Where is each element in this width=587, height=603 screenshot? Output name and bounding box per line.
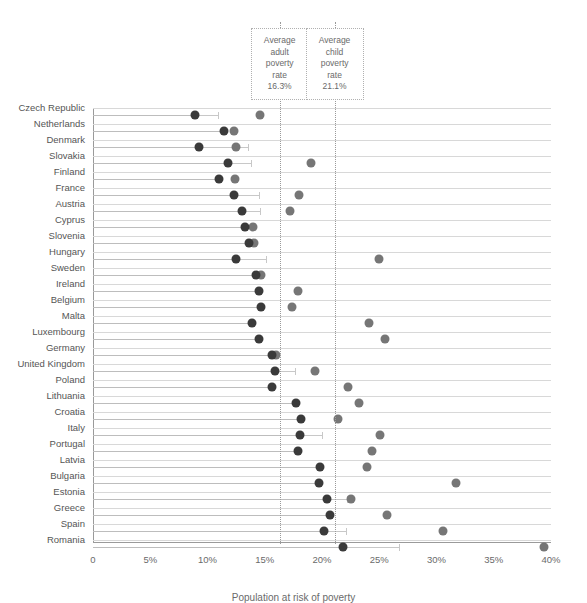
data-point-adult xyxy=(219,127,228,136)
chart-row: Luxembourg xyxy=(93,332,551,348)
chart-row: France xyxy=(93,188,551,204)
data-point-adult xyxy=(248,319,257,328)
data-point-adult xyxy=(251,271,260,280)
row-gridline xyxy=(93,380,551,381)
data-point-adult xyxy=(237,207,246,216)
category-label-cyprus: Cyprus xyxy=(55,214,85,226)
category-label-poland: Poland xyxy=(55,374,85,386)
category-label-czech-republic: Czech Republic xyxy=(18,102,85,114)
data-point-child xyxy=(256,111,265,120)
row-stem xyxy=(93,515,330,516)
whisker-end-cap xyxy=(218,112,219,119)
row-stem xyxy=(93,339,259,340)
annotation-value: 16.3% xyxy=(256,81,304,93)
annotation-text-line: Average xyxy=(311,35,359,47)
chart-row: Greece xyxy=(93,508,551,524)
row-stem xyxy=(93,531,324,532)
data-point-child xyxy=(344,383,353,392)
category-label-ireland: Ireland xyxy=(56,278,85,290)
data-point-adult xyxy=(257,303,266,312)
chart-row: Lithuania xyxy=(93,396,551,412)
category-label-croatia: Croatia xyxy=(54,406,85,418)
category-label-hungary: Hungary xyxy=(49,246,85,258)
data-point-adult xyxy=(293,447,302,456)
reference-line-average-adult xyxy=(280,22,281,544)
category-label-denmark: Denmark xyxy=(46,134,85,146)
data-point-child xyxy=(230,175,239,184)
row-gridline xyxy=(93,396,551,397)
data-point-adult xyxy=(244,239,253,248)
category-label-slovakia: Slovakia xyxy=(49,150,85,162)
whisker-end-cap xyxy=(260,208,261,215)
data-point-adult xyxy=(297,415,306,424)
data-point-adult xyxy=(338,543,347,552)
row-stem xyxy=(93,131,224,132)
data-point-adult xyxy=(267,383,276,392)
row-whisker xyxy=(343,547,399,548)
data-point-child xyxy=(295,191,304,200)
row-stem xyxy=(93,243,249,244)
category-label-germany: Germany xyxy=(46,342,85,354)
annotation-text-line: adult xyxy=(256,47,304,59)
category-label-estonia: Estonia xyxy=(53,486,85,498)
row-gridline xyxy=(93,348,551,349)
row-stem xyxy=(93,147,199,148)
row-gridline xyxy=(93,252,551,253)
data-point-child xyxy=(439,527,448,536)
row-gridline xyxy=(93,444,551,445)
data-point-adult xyxy=(224,159,233,168)
row-stem xyxy=(93,259,236,260)
data-point-adult xyxy=(190,111,199,120)
chart-row: United Kingdom xyxy=(93,364,551,380)
data-point-adult xyxy=(291,399,300,408)
annotation-text-line: rate xyxy=(256,70,304,82)
whisker-end-cap xyxy=(251,160,252,167)
annotation-value: 21.1% xyxy=(311,81,359,93)
x-axis-tick-label: 10% xyxy=(198,554,217,565)
row-stem xyxy=(93,547,343,548)
row-stem xyxy=(93,307,261,308)
data-point-adult xyxy=(326,511,335,520)
data-point-child xyxy=(346,495,355,504)
whisker-end-cap xyxy=(399,544,400,551)
data-point-adult xyxy=(241,223,250,232)
x-axis-tick-label: 15% xyxy=(255,554,274,565)
x-axis-tick-label: 0 xyxy=(90,554,95,565)
chart-row: Sweden xyxy=(93,268,551,284)
row-stem xyxy=(93,435,300,436)
row-gridline xyxy=(93,204,551,205)
data-point-adult xyxy=(296,431,305,440)
row-stem xyxy=(93,115,195,116)
chart-row: Italy xyxy=(93,428,551,444)
row-gridline xyxy=(93,316,551,317)
row-gridline xyxy=(93,300,551,301)
row-gridline xyxy=(93,412,551,413)
chart-row: Belgium xyxy=(93,300,551,316)
data-point-adult xyxy=(271,367,280,376)
row-gridline xyxy=(93,156,551,157)
annotation-text-line: child xyxy=(311,47,359,59)
data-point-child xyxy=(380,335,389,344)
row-stem xyxy=(93,419,301,420)
x-axis-tick-label: 5% xyxy=(143,554,157,565)
whisker-end-cap xyxy=(259,192,260,199)
data-point-child xyxy=(451,479,460,488)
x-axis-tick-label: 30% xyxy=(427,554,446,565)
category-label-romania: Romania xyxy=(47,534,85,546)
category-label-italy: Italy xyxy=(68,422,85,434)
data-point-child xyxy=(232,143,241,152)
category-label-malta: Malta xyxy=(62,310,85,322)
data-point-adult xyxy=(320,527,329,536)
annotation-text-line: Average xyxy=(256,35,304,47)
chart-row: Netherlands xyxy=(93,124,551,140)
data-point-adult xyxy=(214,175,223,184)
data-point-adult xyxy=(267,351,276,360)
data-point-adult xyxy=(322,495,331,504)
row-gridline xyxy=(93,364,551,365)
data-point-child xyxy=(311,367,320,376)
annotation-text-line: poverty xyxy=(256,58,304,70)
data-point-child xyxy=(383,511,392,520)
category-label-finland: Finland xyxy=(54,166,85,178)
row-gridline xyxy=(93,492,551,493)
chart-row: Latvia xyxy=(93,460,551,476)
